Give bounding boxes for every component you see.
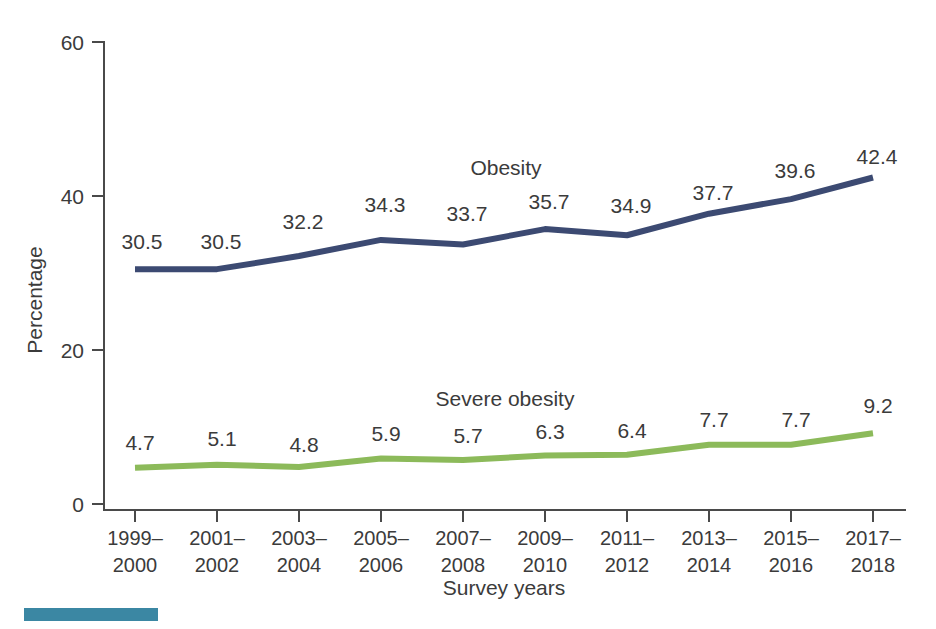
x-tick-label-8-line1: 2015– <box>763 527 819 549</box>
x-tick-label-8-line2: 2016 <box>769 554 814 576</box>
value-label-obesity-5: 35.7 <box>529 190 570 213</box>
value-label-severe-2: 4.8 <box>289 433 318 456</box>
y-axis-title: Percentage <box>23 246 46 353</box>
x-tick-label-1-line2: 2002 <box>195 554 240 576</box>
x-tick-label-2-line2: 2004 <box>277 554 322 576</box>
value-label-obesity-4: 33.7 <box>447 202 488 225</box>
x-tick-label-9-line2: 2018 <box>851 554 896 576</box>
x-tick-label-0-line2: 2000 <box>113 554 158 576</box>
value-label-severe-7: 7.7 <box>699 408 728 431</box>
y-tick-label-40: 40 <box>61 185 84 208</box>
value-label-severe-0: 4.7 <box>125 431 154 454</box>
value-label-severe-8: 7.7 <box>781 408 810 431</box>
series-annotation-severe-obesity: Severe obesity <box>436 387 575 410</box>
x-axis-title: Survey years <box>443 576 566 599</box>
x-tick-label-3-line2: 2006 <box>359 554 404 576</box>
x-axis-ticks <box>135 510 873 522</box>
y-tick-label-0: 0 <box>72 493 84 516</box>
value-label-severe-6: 6.4 <box>617 419 647 442</box>
decorative-accent-bar <box>24 608 158 621</box>
line-chart-svg: 60 40 20 0 Percentage 1999– 2000 2001– 2… <box>0 0 936 629</box>
chart-container: 60 40 20 0 Percentage 1999– 2000 2001– 2… <box>0 0 936 629</box>
x-tick-label-7-line1: 2013– <box>681 527 737 549</box>
value-label-obesity-8: 39.6 <box>775 159 816 182</box>
x-tick-label-7-line2: 2014 <box>687 554 732 576</box>
x-axis-tick-labels: 1999– 2000 2001– 2002 2003– 2004 2005– 2… <box>107 527 901 576</box>
value-label-severe-4: 5.7 <box>453 424 482 447</box>
x-tick-label-4-line2: 2008 <box>441 554 486 576</box>
value-label-obesity-0: 30.5 <box>122 230 163 253</box>
x-tick-label-4-line1: 2007– <box>435 527 491 549</box>
value-label-obesity-1: 30.5 <box>201 230 242 253</box>
series-annotation-obesity: Obesity <box>470 156 542 179</box>
value-label-obesity-2: 32.2 <box>283 210 324 233</box>
value-label-obesity-3: 34.3 <box>365 193 406 216</box>
value-label-severe-5: 6.3 <box>535 420 564 443</box>
y-axis-ticks <box>92 42 104 504</box>
x-tick-label-1-line1: 2001– <box>189 527 245 549</box>
x-tick-label-0-line1: 1999– <box>107 527 163 549</box>
x-tick-label-5-line1: 2009– <box>517 527 573 549</box>
x-tick-label-6-line2: 2012 <box>605 554 650 576</box>
series-line-obesity <box>135 178 873 270</box>
value-label-obesity-6: 34.9 <box>611 194 652 217</box>
series-line-severe-obesity <box>135 433 873 468</box>
value-label-severe-3: 5.9 <box>371 422 400 445</box>
x-tick-label-9-line1: 2017– <box>845 527 901 549</box>
x-tick-label-2-line1: 2003– <box>271 527 327 549</box>
x-tick-label-5-line2: 2010 <box>523 554 568 576</box>
value-label-obesity-9: 42.4 <box>857 145 898 168</box>
x-tick-label-6-line1: 2011– <box>600 527 655 549</box>
value-label-severe-1: 5.1 <box>207 427 236 450</box>
x-tick-label-3-line1: 2005– <box>353 527 409 549</box>
y-tick-label-60: 60 <box>61 31 84 54</box>
y-tick-label-20: 20 <box>61 339 84 362</box>
value-label-obesity-7: 37.7 <box>693 181 734 204</box>
value-label-severe-9: 9.2 <box>863 394 892 417</box>
